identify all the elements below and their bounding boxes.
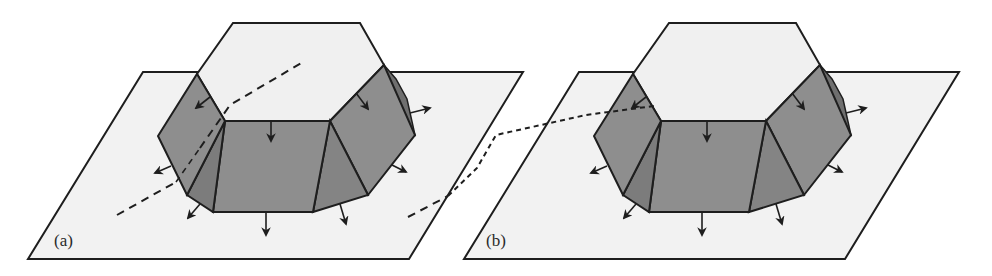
panel-label-b: (b) xyxy=(486,231,506,251)
panel-a xyxy=(28,23,523,259)
panel-b xyxy=(408,23,959,259)
panel-label-a: (a) xyxy=(54,231,73,251)
